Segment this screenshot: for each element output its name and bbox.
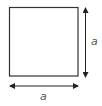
side-label-bottom: a [40, 90, 47, 103]
side-label-right: a [91, 35, 98, 48]
square [10, 8, 79, 77]
square-diagram: a a [0, 0, 102, 106]
